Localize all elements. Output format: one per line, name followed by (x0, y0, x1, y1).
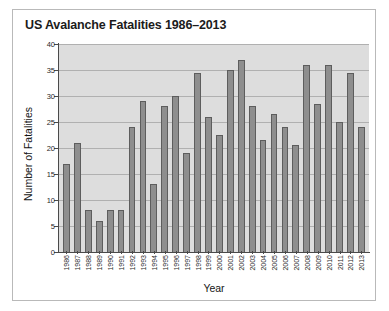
bar-slot (345, 44, 356, 252)
bar[interactable] (63, 164, 70, 252)
x-tick-mark (187, 251, 188, 254)
bar[interactable] (216, 135, 223, 252)
bar[interactable] (85, 210, 92, 252)
x-tick-label: 2007 (292, 255, 299, 271)
bar[interactable] (292, 145, 299, 252)
bar[interactable] (249, 106, 256, 252)
x-tick-label: 1987 (74, 255, 81, 271)
bar[interactable] (238, 60, 245, 252)
y-tick-label: 40 (37, 40, 55, 49)
chart-title: US Avalanche Fatalities 1986–2013 (25, 18, 226, 32)
y-axis-line (58, 43, 59, 253)
bar-slot (301, 44, 312, 252)
x-tick-label: 1993 (139, 255, 146, 271)
bar-slot (312, 44, 323, 252)
bar[interactable] (336, 122, 343, 252)
bar-slot (258, 44, 269, 252)
bar[interactable] (107, 210, 114, 252)
bar[interactable] (140, 101, 147, 252)
bar-slot (214, 44, 225, 252)
bar[interactable] (303, 65, 310, 252)
bar[interactable] (314, 104, 321, 252)
bar-slot (225, 44, 236, 252)
x-tick-mark (361, 251, 362, 254)
bar-slot (269, 44, 280, 252)
x-tick-label: 1999 (205, 255, 212, 271)
x-tick-label: 1994 (150, 255, 157, 271)
x-tick-mark (263, 251, 264, 254)
x-tick-mark (318, 251, 319, 254)
bar[interactable] (227, 70, 234, 252)
bar[interactable] (118, 210, 125, 252)
bar-slot (181, 44, 192, 252)
x-tick-label: 2013 (358, 255, 365, 271)
bar-slot (116, 44, 127, 252)
bar[interactable] (74, 143, 81, 252)
x-tick-mark (340, 251, 341, 254)
bar[interactable] (260, 140, 267, 252)
y-tick-label: 20 (37, 144, 55, 153)
bar-series (59, 44, 369, 252)
x-tick-mark (230, 251, 231, 254)
x-tick-mark (66, 251, 67, 254)
bar-slot (170, 44, 181, 252)
x-tick-mark (252, 251, 253, 254)
bar-slot (236, 44, 247, 252)
x-tick-label: 1990 (107, 255, 114, 271)
x-tick-mark (176, 251, 177, 254)
x-tick-mark (219, 251, 220, 254)
x-tick-mark (350, 251, 351, 254)
bar-slot (72, 44, 83, 252)
bar[interactable] (325, 65, 332, 252)
x-tick-label: 2000 (216, 255, 223, 271)
x-tick-label: 2002 (238, 255, 245, 271)
bar-slot (247, 44, 258, 252)
chart-card: US Avalanche Fatalities 1986–2013 403530… (12, 9, 376, 301)
x-tick-mark (132, 251, 133, 254)
x-tick-mark (241, 251, 242, 254)
bar-slot (356, 44, 367, 252)
bar[interactable] (194, 73, 201, 252)
x-tick-mark (296, 251, 297, 254)
y-tick-label: 5 (37, 222, 55, 231)
x-tick-label: 1989 (96, 255, 103, 271)
x-tick-label: 1992 (128, 255, 135, 271)
x-tick-mark (274, 251, 275, 254)
x-tick-mark (329, 251, 330, 254)
y-tick-label: 15 (37, 170, 55, 179)
bar[interactable] (358, 127, 365, 252)
bar-slot (61, 44, 72, 252)
plot-area (59, 44, 369, 252)
bar[interactable] (347, 73, 354, 252)
bar[interactable] (129, 127, 136, 252)
x-tick-mark (165, 251, 166, 254)
x-tick-label: 1998 (194, 255, 201, 271)
bar-slot (290, 44, 301, 252)
bar[interactable] (96, 221, 103, 252)
bar[interactable] (172, 96, 179, 252)
x-tick-mark (121, 251, 122, 254)
bar[interactable] (282, 127, 289, 252)
x-tick-label: 2001 (227, 255, 234, 271)
x-tick-mark (77, 251, 78, 254)
bar-slot (279, 44, 290, 252)
x-tick-mark (88, 251, 89, 254)
bar[interactable] (183, 153, 190, 252)
x-tick-label: 1995 (161, 255, 168, 271)
x-tick-mark (208, 251, 209, 254)
y-axis-ticks: 4035302520151050 (13, 10, 55, 302)
bar[interactable] (150, 184, 157, 252)
bar[interactable] (161, 106, 168, 252)
bar-slot (323, 44, 334, 252)
bar[interactable] (205, 117, 212, 252)
bar[interactable] (271, 114, 278, 252)
x-tick-mark (307, 251, 308, 254)
x-tick-label: 1996 (172, 255, 179, 271)
x-tick-label: 1988 (85, 255, 92, 271)
x-tick-mark (285, 251, 286, 254)
x-tick-label: 2010 (325, 255, 332, 271)
x-tick-label: 2012 (347, 255, 354, 271)
bar-slot (192, 44, 203, 252)
y-tick-label: 30 (37, 92, 55, 101)
bar-slot (137, 44, 148, 252)
